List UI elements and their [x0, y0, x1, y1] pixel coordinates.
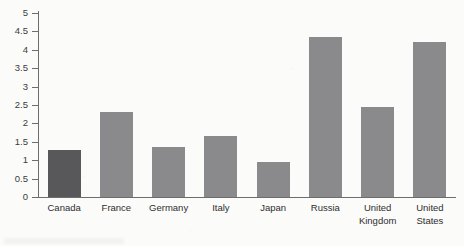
- x-axis-line: [38, 197, 456, 198]
- x-axis-label-line: France: [90, 201, 142, 214]
- bar-russia: [309, 37, 342, 197]
- x-axis-label: UnitedStates: [404, 201, 456, 227]
- x-axis-label-line: United: [404, 201, 456, 214]
- x-axis-label: UnitedKingdom: [352, 201, 404, 227]
- bar-chart: 00.511.522.533.544.55 CanadaFranceGerman…: [0, 0, 464, 246]
- x-axis-label: France: [90, 201, 142, 214]
- bar-germany: [152, 147, 185, 197]
- x-axis-category-labels: CanadaFranceGermanyItalyJapanRussiaUnite…: [38, 201, 456, 245]
- bar-japan: [257, 162, 290, 197]
- y-axis-tick-label: 2.5: [0, 100, 28, 110]
- bars-layer: [38, 10, 456, 197]
- x-axis-label-line: Germany: [143, 201, 195, 214]
- y-axis-tick-label: 1: [0, 155, 28, 165]
- x-axis-label-line: Kingdom: [352, 214, 404, 227]
- x-axis-label-line: States: [404, 214, 456, 227]
- x-axis-label: Germany: [143, 201, 195, 214]
- y-axis-tick-label: 1.5: [0, 137, 28, 147]
- bar-united-kingdom: [361, 107, 394, 197]
- x-axis-label-line: Italy: [195, 201, 247, 214]
- x-axis-label-line: Canada: [38, 201, 90, 214]
- y-axis-tick-label: 0: [0, 192, 28, 202]
- bar-italy: [204, 136, 237, 197]
- y-axis-tick-label: 4: [0, 45, 28, 55]
- x-axis-label: Canada: [38, 201, 90, 214]
- y-axis-tick-label: 2: [0, 118, 28, 128]
- x-axis-label-line: United: [352, 201, 404, 214]
- x-axis-label-line: Russia: [299, 201, 351, 214]
- y-axis-tick-label: 0.5: [0, 174, 28, 184]
- y-axis-tick-label: 5: [0, 8, 28, 18]
- x-axis-label-line: Japan: [247, 201, 299, 214]
- x-axis-label: Russia: [299, 201, 351, 214]
- y-axis-tick-label: 4.5: [0, 26, 28, 36]
- x-axis-label: Italy: [195, 201, 247, 214]
- y-axis-tick-label: 3.5: [0, 63, 28, 73]
- x-axis-label: Japan: [247, 201, 299, 214]
- bar-canada: [48, 150, 81, 197]
- y-axis-tick-label: 3: [0, 82, 28, 92]
- bar-united-states: [413, 42, 446, 197]
- bar-france: [100, 112, 133, 197]
